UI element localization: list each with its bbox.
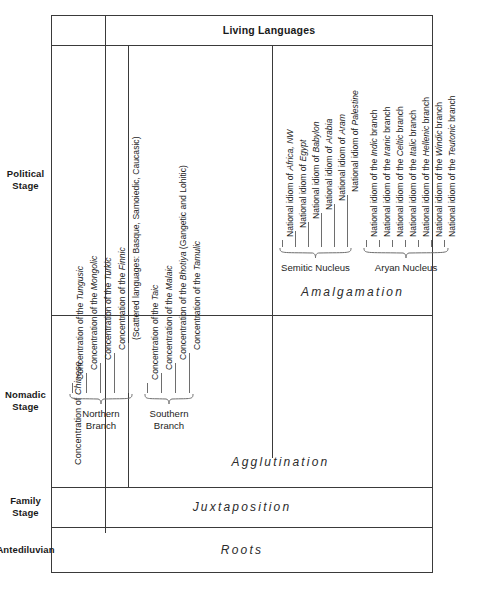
southern-brace <box>144 393 194 405</box>
stage-antediluvian-line1: Antediluvian <box>0 544 55 556</box>
semitic-italic-4: Aram <box>337 114 347 135</box>
semitic-brace <box>279 247 352 259</box>
southern-prefix-0: Concentration of the <box>150 300 160 380</box>
aryan-suffix-4: branch <box>421 97 431 126</box>
aryan-label-2: National idiom of the Celtic branch <box>396 106 405 237</box>
aryan-prefix-6: National idiom of the <box>447 156 457 237</box>
northern-brace <box>69 393 133 405</box>
aryan-italic-2: Celtic <box>395 135 405 157</box>
semitic-leader-4 <box>334 204 335 247</box>
aryan-label-6: National idiom of the Teutonic branch <box>448 95 457 237</box>
aryan-italic-5: Windic <box>434 131 444 157</box>
semitic-italic-0: Africa, NW <box>285 130 295 171</box>
aryan-leader-5 <box>431 240 432 247</box>
aryan-prefix-2: National idiom of the <box>395 156 405 237</box>
southern-prefix-1: Concentration of the <box>164 290 174 370</box>
aryan-prefix-5: National idiom of the <box>434 156 444 237</box>
stage-family-line1: Family <box>10 495 41 507</box>
aryan-prefix-1: National idiom of the <box>382 156 392 237</box>
mode-roots: Roots <box>51 527 433 573</box>
aryan-label-5: National idiom of the Windic branch <box>435 102 444 237</box>
stage-label-antediluvian: Antediluvian <box>0 527 51 573</box>
semitic-leader-2 <box>308 222 309 247</box>
semitic-leader-0 <box>282 240 283 247</box>
aryan-label-1: National idiom of the Iranic branch <box>383 107 392 237</box>
aryan-italic-0: Indic <box>369 138 379 156</box>
semitic-label-3: National idiom of Arabia <box>325 119 334 210</box>
aryan-prefix-3: National idiom of the <box>408 156 418 237</box>
southern-leader-1 <box>161 373 162 393</box>
aryan-prefix-0: National idiom of the <box>369 156 379 237</box>
stage-political-line2: Stage <box>7 180 44 192</box>
mode-juxtaposition: Juxtaposition <box>51 487 433 527</box>
stage-label-family: FamilyStage <box>0 487 51 527</box>
semitic-prefix-5: National idiom of <box>350 126 360 192</box>
southern-suffix-2: (Gangetic and Lohitic) <box>178 165 188 251</box>
aryan-label-3: National idiom of the Italic branch <box>409 110 418 237</box>
northern-italic-0: Tungusic <box>75 266 85 300</box>
rule-header-bottom <box>51 45 433 46</box>
southern-label-0: Concentration of the Taic <box>151 285 160 380</box>
southern-caption-line2: Branch <box>124 420 214 432</box>
northern-prefix-2: Concentration of the <box>103 280 113 360</box>
southern-label-3: Concentration of the Tamulic <box>193 241 202 350</box>
southern-leader-3 <box>189 353 190 393</box>
aryan-leader-3 <box>405 240 406 247</box>
southern-label-1: Concentration of the Malaic <box>165 265 174 370</box>
northern-label-3: Concentration of the Finnic <box>118 247 127 350</box>
stage-nomadic-line2: Stage <box>5 401 46 413</box>
southern-italic-1: Malaic <box>164 265 174 290</box>
northern-italic-3: Finnic <box>117 247 127 270</box>
aryan-caption: Aryan Nucleus <box>343 262 469 274</box>
northern-prefix-1: Concentration of the <box>89 290 99 370</box>
language-stage-diagram: Living Languages PoliticalStage NomadicS… <box>51 15 433 573</box>
northern-leader-0 <box>72 383 73 393</box>
northern-prefix-4: (Scattered languages: Basque, Samoiedic,… <box>131 137 141 341</box>
northern-prefix-0: Concentration of the <box>75 300 85 380</box>
aryan-suffix-0: branch <box>369 109 379 138</box>
semitic-label-5: National idiom of Palestine <box>351 90 360 192</box>
northern-label-1: Concentration of the Mongolic <box>90 256 99 370</box>
northern-label-4: (Scattered languages: Basque, Samoiedic,… <box>132 137 141 341</box>
southern-prefix-2: Concentration of the <box>178 280 188 360</box>
stage-label-nomadic: NomadicStage <box>0 315 51 487</box>
mode-amalgamation: Amalgamation <box>272 277 433 307</box>
aryan-leader-0 <box>366 240 367 247</box>
stage-nomadic-line1: Nomadic <box>5 389 46 401</box>
aryan-suffix-2: branch <box>395 106 405 135</box>
southern-italic-2: Bhotiya <box>178 252 188 281</box>
northern-prefix-3: Concentration of the <box>117 270 127 350</box>
semitic-italic-1: Egypt <box>298 140 308 162</box>
aryan-suffix-5: branch <box>434 102 444 131</box>
aryan-suffix-1: branch <box>382 107 392 136</box>
semitic-italic-5: Palestine <box>350 90 360 125</box>
aryan-suffix-3: branch <box>408 110 418 139</box>
northern-label-0: Concentration of the Tungusic <box>76 266 85 380</box>
semitic-prefix-0: National idiom of <box>285 171 295 237</box>
aryan-italic-3: Italic <box>408 139 418 157</box>
aryan-label-0: National idiom of the Indic branch <box>370 109 379 237</box>
southern-label-2: Concentration of the Bhotiya (Gangetic a… <box>179 165 188 360</box>
aryan-leader-2 <box>392 240 393 247</box>
southern-leader-0 <box>147 383 148 393</box>
semitic-prefix-2: National idiom of <box>311 153 321 219</box>
aryan-italic-1: Iranic <box>382 135 392 156</box>
stage-political-line1: Political <box>7 168 44 180</box>
header-living-languages: Living Languages <box>105 15 433 45</box>
aryan-suffix-6: branch <box>447 95 457 124</box>
semitic-label-0: National idiom of Africa, NW <box>286 130 295 237</box>
semitic-label-1: National idiom of Egypt <box>299 140 308 228</box>
semitic-italic-3: Arabia <box>324 119 334 144</box>
semitic-label-4: National idiom of Aram <box>338 114 347 201</box>
mode-agglutination: Agglutination <box>128 447 433 477</box>
aryan-italic-4: Hellenic <box>421 126 431 157</box>
stage-label-political: PoliticalStage <box>0 45 51 315</box>
northern-italic-1: Mongolic <box>89 256 99 290</box>
semitic-prefix-3: National idiom of <box>324 144 334 210</box>
semitic-leader-5 <box>347 195 348 247</box>
aryan-prefix-4: National idiom of the <box>421 156 431 237</box>
stage-family-line2: Stage <box>10 507 41 519</box>
aryan-brace <box>363 247 449 259</box>
aryan-label-4: National idiom of the Hellenic branch <box>422 97 431 237</box>
aryan-leader-4 <box>418 240 419 247</box>
